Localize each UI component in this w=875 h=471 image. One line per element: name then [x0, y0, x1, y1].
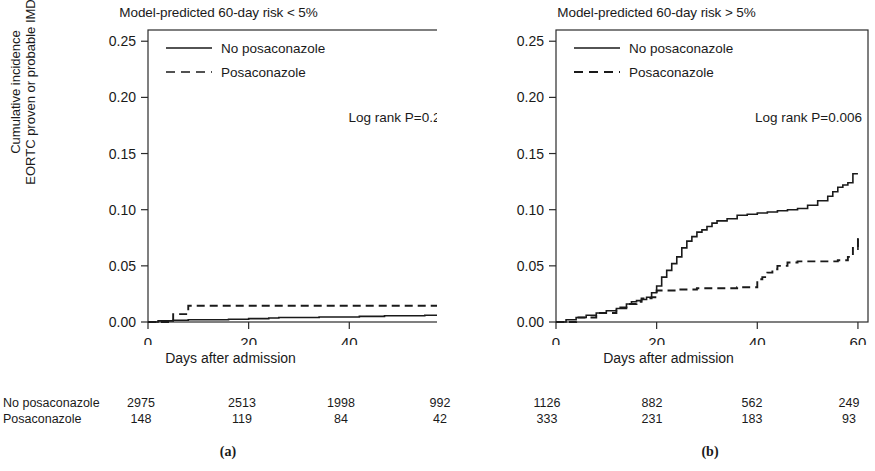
- y-tick-label: 0.25: [517, 33, 544, 49]
- legend-b: No posaconazole Posaconazole: [574, 41, 733, 80]
- legend-solid-label-a: No posaconazole: [221, 41, 325, 56]
- y-tick-label: 0.05: [517, 258, 544, 274]
- curves-a: [148, 305, 437, 322]
- legend-solid-label-b: No posaconazole: [629, 41, 733, 56]
- risk-a0-t0: 2975: [118, 396, 164, 410]
- table-row: No posaconazole 2975 2513 1998 992 1126 …: [0, 396, 875, 413]
- panel-b: Model-predicted 60-day risk > 5% 0.000.0…: [438, 0, 875, 390]
- panel-a: Model-predicted 60-day risk < 5% Cumulat…: [0, 0, 437, 390]
- logrank-annotation-a: Log rank P=0.21: [349, 110, 437, 125]
- risk-a1-t1: 119: [219, 412, 265, 426]
- risk-a1-t0: 148: [118, 412, 164, 426]
- risk-b1-t1: 231: [629, 412, 675, 426]
- legend-dashed-label-a: Posaconazole: [221, 65, 306, 80]
- x-axis-label-b: Days after admission: [450, 350, 875, 366]
- table-row: Posaconazole 148 119 84 42 333 231 183 9…: [0, 412, 875, 429]
- risk-a0-t3: 992: [417, 396, 463, 410]
- y-tick-label: 0.00: [109, 314, 136, 330]
- y-tick-label: 0.20: [109, 89, 136, 105]
- legend-dashed-label-b: Posaconazole: [629, 65, 714, 80]
- risk-b1-t0: 333: [524, 412, 570, 426]
- risk-b0-t3: 249: [826, 396, 872, 410]
- y-tick-label: 0.20: [517, 89, 544, 105]
- y-tick-label: 0.15: [109, 146, 136, 162]
- y-tick-label: 0.25: [109, 33, 136, 49]
- risk-b0-t0: 1126: [524, 396, 570, 410]
- panel-b-plot: 0.000.050.100.150.200.25 0204060 No posa…: [438, 0, 875, 345]
- y-tick-label: 0.15: [517, 146, 544, 162]
- curve-no-posaconazole: [556, 174, 858, 322]
- risk-b0-t2: 562: [729, 396, 775, 410]
- risk-row-label-1: Posaconazole: [3, 412, 82, 426]
- y-tick-label: 0.05: [109, 258, 136, 274]
- numbers-at-risk-table: No posaconazole 2975 2513 1998 992 1126 …: [0, 396, 875, 436]
- x-tick-label: 20: [240, 334, 257, 345]
- figure-container: Model-predicted 60-day risk < 5% Cumulat…: [0, 0, 875, 471]
- risk-a0-t2: 1998: [318, 396, 364, 410]
- risk-b1-t2: 183: [729, 412, 775, 426]
- curves-b: [556, 174, 858, 322]
- y-tick-label: 0.10: [517, 202, 544, 218]
- y-tick-label: 0.00: [517, 314, 544, 330]
- x-tick-label: 20: [648, 334, 665, 345]
- subcaption-b: (b): [680, 444, 740, 460]
- y-axis-ticks-b: 0.000.050.100.150.200.25: [517, 33, 556, 330]
- y-axis-ticks-a: 0.000.050.100.150.200.25: [109, 33, 148, 330]
- x-axis-ticks-a: 0204060: [144, 322, 437, 345]
- x-axis-ticks-b: 0204060: [552, 322, 866, 345]
- x-tick-label: 0: [552, 334, 560, 345]
- risk-a1-t2: 84: [318, 412, 364, 426]
- risk-b1-t3: 93: [826, 412, 872, 426]
- curve-posaconazole: [556, 239, 858, 322]
- legend-a: No posaconazole Posaconazole: [166, 41, 325, 80]
- x-tick-label: 40: [749, 334, 766, 345]
- panel-a-plot: 0.000.050.100.150.200.25 0204060 No posa…: [0, 0, 437, 345]
- curve-no-posaconazole: [148, 315, 437, 322]
- subcaption-a: (a): [198, 444, 258, 460]
- risk-a0-t1: 2513: [219, 396, 265, 410]
- x-tick-label: 60: [850, 334, 867, 345]
- x-tick-label: 0: [144, 334, 152, 345]
- x-tick-label: 40: [341, 334, 358, 345]
- risk-b0-t1: 882: [629, 396, 675, 410]
- logrank-annotation-b: Log rank P=0.006: [755, 110, 862, 125]
- risk-row-label-0: No posaconazole: [3, 396, 100, 410]
- risk-a1-t3: 42: [417, 412, 463, 426]
- x-axis-label-a: Days after admission: [12, 350, 449, 366]
- y-tick-label: 0.10: [109, 202, 136, 218]
